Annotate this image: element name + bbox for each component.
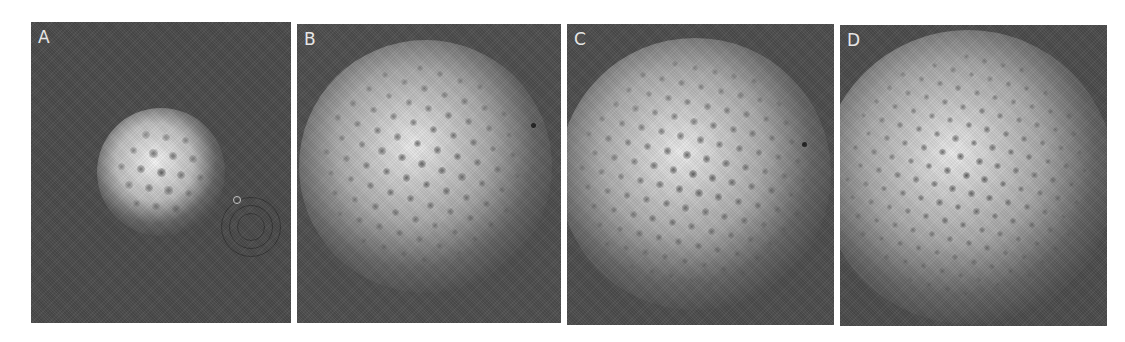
vortex-dot xyxy=(597,222,603,228)
vortex-dot xyxy=(947,117,953,123)
vortex-dot xyxy=(189,155,197,163)
vortex-dot xyxy=(721,266,727,272)
vortex-dot xyxy=(757,97,763,103)
vortex-dot xyxy=(656,181,663,188)
vortex-dot xyxy=(734,251,740,257)
vortex-dot xyxy=(735,198,742,205)
vortex-dot xyxy=(982,58,987,63)
vortex-dot xyxy=(788,192,794,198)
vortex-dot xyxy=(1048,109,1053,114)
vortex-dot xyxy=(1013,167,1019,173)
vortex-dot xyxy=(649,268,655,274)
vortex-dot xyxy=(374,127,381,134)
vortex-dot xyxy=(157,168,166,177)
vortex-dot xyxy=(1074,200,1079,205)
vortex-dot xyxy=(921,263,927,269)
vortex-dot xyxy=(775,154,781,160)
vortex-dot xyxy=(1063,163,1069,169)
vortex-dot xyxy=(984,126,990,132)
vortex-lattice xyxy=(567,24,834,325)
vortex-dot xyxy=(853,145,858,150)
vortex-dot xyxy=(692,65,698,71)
vortex-dot xyxy=(913,176,919,182)
vortex-dot xyxy=(437,71,443,77)
vortex-dot xyxy=(130,147,138,155)
vortex-dot xyxy=(646,91,652,97)
vortex-dot xyxy=(767,240,773,246)
vortex-dot xyxy=(172,205,179,212)
vortex-dot xyxy=(668,273,674,279)
vortex-dot xyxy=(754,255,760,261)
vortex-dot xyxy=(747,236,753,242)
vortex-dot xyxy=(742,164,749,171)
vortex-dot xyxy=(390,113,397,120)
vortex-dot xyxy=(626,87,632,93)
vortex-dot xyxy=(125,181,133,189)
vortex-dot xyxy=(963,291,968,296)
vortex-dot xyxy=(1008,268,1013,273)
vortex-dot xyxy=(417,65,423,71)
vortex-dot xyxy=(949,185,956,192)
vortex-dot xyxy=(378,147,385,154)
vortex-dot xyxy=(908,158,914,164)
vortex-dot xyxy=(662,253,668,259)
vortex-dot xyxy=(1003,250,1009,256)
vortex-dot xyxy=(712,69,718,75)
vortex-dot xyxy=(592,150,598,156)
panel-d: D xyxy=(840,25,1107,326)
vortex-dot xyxy=(761,221,767,227)
vortex-dot xyxy=(902,140,908,146)
vortex-dot xyxy=(736,145,743,152)
vortex-dot xyxy=(887,85,892,90)
vortex-dot xyxy=(366,86,372,92)
vortex-dot xyxy=(514,173,520,179)
vortex-dot xyxy=(643,196,650,203)
vortex-dot xyxy=(382,72,388,78)
vortex-dot xyxy=(185,190,193,198)
vortex-dot xyxy=(423,181,431,189)
vortex-dot xyxy=(958,273,964,279)
vortex-dot xyxy=(683,151,691,159)
vortex-dot xyxy=(1069,182,1074,187)
vortex-dot xyxy=(1010,218,1016,224)
vortex-dot xyxy=(445,112,452,119)
vortex-dot xyxy=(339,135,345,141)
vortex-dot xyxy=(1034,241,1040,247)
vortex-dot xyxy=(947,236,953,242)
vortex-dot xyxy=(1071,131,1076,136)
vortex-dot xyxy=(142,131,149,138)
vortex-dot xyxy=(1018,186,1024,192)
vortex-dot xyxy=(328,170,334,176)
vortex-dot xyxy=(599,116,605,122)
vortex-dot xyxy=(1061,214,1066,219)
vortex-dot xyxy=(438,167,446,175)
vortex-dot xyxy=(1011,99,1017,105)
vortex-dot xyxy=(137,165,145,173)
vortex-dot xyxy=(598,169,604,175)
vortex-dot xyxy=(1016,236,1022,242)
vortex-dot xyxy=(992,95,998,101)
vortex-dot xyxy=(755,202,762,209)
vortex-dot xyxy=(490,146,497,153)
vortex-dot xyxy=(348,176,355,183)
vortex-dot xyxy=(992,213,998,219)
vortex-dot xyxy=(1053,127,1059,133)
vortex-dot xyxy=(737,92,743,98)
vortex-dot xyxy=(710,122,717,129)
vortex-dot xyxy=(964,54,969,59)
vortex-dot xyxy=(981,176,988,183)
vortex-dot xyxy=(781,226,787,232)
vortex-lattice xyxy=(840,25,1107,326)
vortex-dot xyxy=(1082,168,1087,173)
vortex-dot xyxy=(506,132,512,138)
vortex-dot xyxy=(458,173,465,180)
vortex-dot xyxy=(860,231,865,236)
vortex-dot xyxy=(675,238,682,245)
vortex-dot xyxy=(406,99,413,106)
vortex-dot xyxy=(605,135,611,141)
vortex-dot xyxy=(670,166,678,174)
vortex-dot xyxy=(456,250,462,256)
vortex-dot xyxy=(684,99,691,106)
vortex-dot xyxy=(1016,117,1022,123)
vortex-dot xyxy=(436,243,442,249)
